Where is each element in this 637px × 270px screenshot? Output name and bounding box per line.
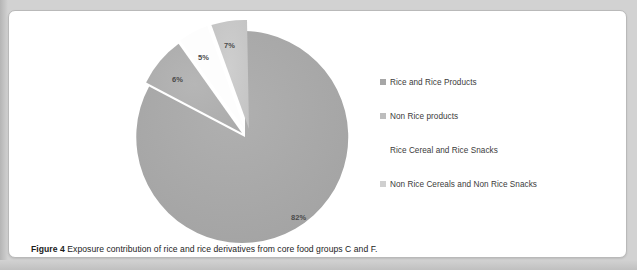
chart-legend: Rice and Rice Products Non Rice products… (380, 77, 615, 213)
legend-item-label: Rice and Rice Products (390, 77, 477, 88)
legend-swatch-icon (380, 147, 386, 153)
pie-chart: 82% 6% 5% 7% Rice and Rice Products Non … (9, 11, 627, 229)
figure-root: 82% 6% 5% 7% Rice and Rice Products Non … (0, 0, 637, 270)
legend-swatch-icon (380, 79, 386, 85)
legend-item-rice-cereal-and-rice-snacks[interactable]: Rice Cereal and Rice Snacks (380, 145, 615, 156)
figure-caption: Figure 4 Exposure contribution of rice a… (31, 243, 611, 255)
legend-item-non-rice-products[interactable]: Non Rice products (380, 111, 615, 122)
legend-item-label: Rice Cereal and Rice Snacks (390, 145, 498, 156)
scan-edge-bottom (0, 260, 637, 270)
pie-chart-svg (119, 13, 379, 243)
pie-label-82: 82% (291, 213, 306, 222)
pie-label-7: 7% (224, 41, 235, 50)
figure-caption-number: Figure 4 (31, 244, 65, 254)
legend-item-rice-and-rice-products[interactable]: Rice and Rice Products (380, 77, 615, 88)
figure-panel: 82% 6% 5% 7% Rice and Rice Products Non … (8, 10, 627, 258)
pie-label-5: 5% (198, 53, 209, 62)
legend-swatch-icon (380, 181, 386, 187)
legend-item-label: Non Rice Cereals and Non Rice Snacks (390, 179, 537, 190)
legend-item-label: Non Rice products (390, 111, 458, 122)
legend-swatch-icon (380, 113, 386, 119)
pie-label-6: 6% (172, 75, 183, 84)
figure-caption-text: Exposure contribution of rice and rice d… (65, 244, 378, 254)
scan-edge-left (0, 0, 8, 270)
legend-item-non-rice-cereals-and-non-rice-snacks[interactable]: Non Rice Cereals and Non Rice Snacks (380, 179, 615, 190)
